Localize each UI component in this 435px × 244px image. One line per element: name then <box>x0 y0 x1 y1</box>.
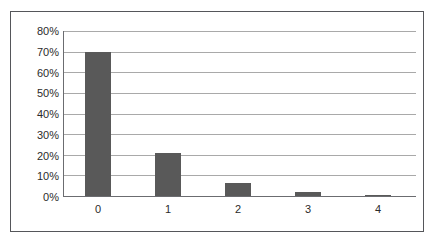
gridline-30 <box>63 134 416 135</box>
gridline-20 <box>63 155 416 156</box>
bar-category-1 <box>155 153 181 196</box>
gridline-50 <box>63 93 416 94</box>
bar-chart-figure: 80% 70% 60% 50% 40% 30% 20% 10% 0% <box>0 0 435 244</box>
bar-category-4 <box>365 195 391 196</box>
chart-frame: 80% 70% 60% 50% 40% 30% 20% 10% 0% <box>10 11 424 232</box>
bar-category-3 <box>295 192 321 196</box>
y-tick-label: 60% <box>15 68 59 79</box>
y-tick-label: 80% <box>15 26 59 37</box>
x-tick-label: 3 <box>288 202 328 216</box>
y-tick-label: 0% <box>15 192 59 203</box>
gridline-10 <box>63 175 416 176</box>
x-axis-line <box>63 196 416 197</box>
x-tick-label: 2 <box>218 202 258 216</box>
y-tick-label: 40% <box>15 109 59 120</box>
x-tick-label: 1 <box>148 202 188 216</box>
gridline-70 <box>63 52 416 53</box>
gridline-40 <box>63 114 416 115</box>
bar-category-0 <box>85 52 111 196</box>
y-tick-label: 70% <box>15 47 59 58</box>
y-tick-label: 20% <box>15 151 59 162</box>
y-axis-tick-labels: 80% 70% 60% 50% 40% 30% 20% 10% 0% <box>11 31 59 197</box>
x-tick-label: 0 <box>78 202 118 216</box>
gridline-80 <box>63 31 416 32</box>
x-axis-tick-labels: 0 1 2 3 4 <box>63 200 416 218</box>
y-tick-label: 50% <box>15 88 59 99</box>
gridline-60 <box>63 72 416 73</box>
plot-area <box>63 31 416 197</box>
y-axis-line <box>63 31 64 197</box>
y-tick-label: 10% <box>15 171 59 182</box>
bar-category-2 <box>225 183 251 196</box>
x-tick-label: 4 <box>358 202 398 216</box>
y-tick-label: 30% <box>15 130 59 141</box>
